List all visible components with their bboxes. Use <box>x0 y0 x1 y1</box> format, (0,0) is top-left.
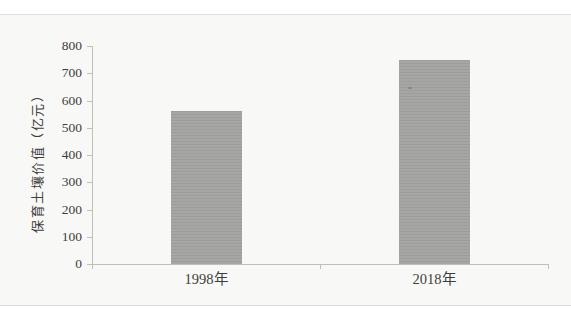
x-tick-mark <box>92 265 93 269</box>
y-tick-label: 600 <box>32 93 82 109</box>
y-tick-label: 300 <box>32 174 82 190</box>
y-tick-mark <box>87 101 92 102</box>
y-tick-mark <box>87 128 92 129</box>
plot-area <box>92 46 549 265</box>
y-tick-label: 0 <box>32 256 82 272</box>
y-tick-label: 100 <box>32 229 82 245</box>
y-tick-label: 500 <box>32 120 82 136</box>
bar-2018年 <box>399 60 470 264</box>
y-tick-mark <box>87 46 92 47</box>
x-tick-label: 1998年 <box>156 270 256 288</box>
y-tick-mark <box>87 237 92 238</box>
x-tick-mark <box>548 265 549 269</box>
y-tick-label: 200 <box>32 202 82 218</box>
x-tick-mark <box>320 265 321 269</box>
y-tick-label: 400 <box>32 147 82 163</box>
bar-1998年 <box>171 111 242 264</box>
figure: 保育土壤价值（亿元） 0100200300400500600700800 199… <box>0 0 571 315</box>
y-tick-label: 800 <box>32 38 82 54</box>
y-tick-mark <box>87 182 92 183</box>
y-tick-label: 700 <box>32 65 82 81</box>
y-tick-mark <box>87 155 92 156</box>
y-tick-mark <box>87 73 92 74</box>
scan-speck-artifact <box>408 87 412 89</box>
x-tick-label: 2018年 <box>384 270 484 288</box>
y-tick-mark <box>87 210 92 211</box>
